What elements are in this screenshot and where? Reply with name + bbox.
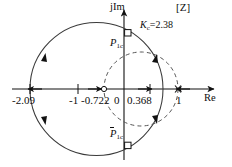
critical-pole-upper-label: P1c: [110, 38, 123, 50]
locus-arrow-lower-left: [41, 116, 47, 125]
critical-pole-lower-marker: [125, 142, 131, 148]
critical-gain-value: =2.38: [150, 19, 173, 30]
tick-label-4: 0.368: [127, 95, 152, 106]
tick-label-5: 1: [176, 95, 182, 106]
locus-arrow-upper-left: [41, 53, 47, 62]
locus-arrow-lower-right: [152, 115, 158, 124]
tick-label-1: -1: [69, 95, 78, 106]
critical-pole-lower-subscript: 1c: [116, 133, 123, 141]
open-loop-zero-marker: [101, 86, 106, 91]
critical-pole-upper-subscript: 1c: [116, 42, 123, 50]
root-locus-plot: [0, 0, 232, 167]
critical-pole-lower-symbol: P: [110, 129, 116, 140]
critical-gain-symbol: K: [140, 19, 147, 30]
real-axis-label: Re: [204, 93, 216, 104]
imaginary-axis-label: jIm: [110, 2, 125, 13]
tick-label-2: -0.722: [81, 95, 109, 106]
locus-arrow-upper-right: [152, 54, 158, 63]
critical-pole-lower-label: P1c: [110, 129, 123, 141]
critical-gain-label: Kc=2.38: [140, 20, 173, 32]
root-locus-figure: [Z] jIm Re Kc=2.38 P1c P1c -2.09 -1 -0.7…: [0, 0, 232, 167]
tick-label-3: 0: [114, 95, 120, 106]
critical-pole-upper-marker: [125, 30, 131, 36]
tick-label-0: -2.09: [12, 95, 35, 106]
plane-label: [Z]: [176, 2, 190, 13]
